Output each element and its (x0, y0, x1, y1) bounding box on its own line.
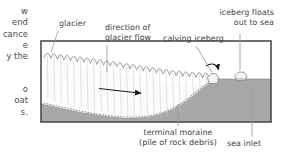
calving-iceberg-shape (208, 74, 220, 84)
label-sea-inlet: sea inlet (227, 139, 261, 149)
diagram-stage: w end cance e y the o oat s. (0, 0, 281, 158)
label-direction-of-glacier-flow: direction of glacier flow (105, 23, 151, 43)
label-glacier: glacier (59, 19, 86, 29)
label-calving-iceberg: calving iceberg (163, 34, 224, 44)
label-iceberg-floats-out-to-sea: iceberg floats out to sea (186, 8, 274, 28)
diagram-interior (41, 41, 271, 122)
label-terminal-moraine: terminal moraine (pile of rock debris) (130, 128, 226, 148)
